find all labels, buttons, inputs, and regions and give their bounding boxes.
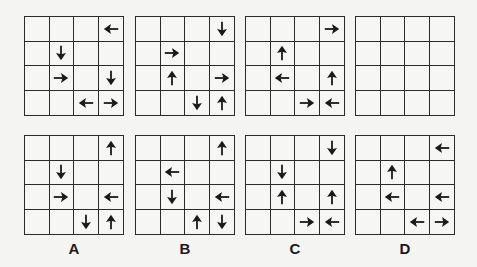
grid-cell <box>405 91 430 116</box>
grid-cell <box>99 210 124 235</box>
grid-cell <box>74 210 99 235</box>
grid-cell <box>356 210 381 235</box>
arrow-left-icon <box>273 69 291 87</box>
grid-cell <box>210 210 235 235</box>
grid-cell <box>99 161 124 186</box>
grid-cell <box>74 91 99 116</box>
grid-cell <box>50 136 75 161</box>
grid-cell <box>320 161 345 186</box>
grid-cell <box>74 66 99 91</box>
grid-cell <box>295 66 320 91</box>
grid-cell <box>320 91 345 116</box>
grid-cell <box>356 66 381 91</box>
arrow-left-icon <box>323 94 341 112</box>
grid-cell <box>136 136 161 161</box>
grid-cell <box>430 185 455 210</box>
grid-cell <box>136 210 161 235</box>
arrow-left-icon <box>433 139 451 157</box>
sequence-grid-4 <box>355 16 455 116</box>
grid-cell <box>246 17 271 42</box>
grid-cell <box>430 136 455 161</box>
grid-cell <box>74 17 99 42</box>
grid-cell <box>430 42 455 67</box>
grid-cell <box>210 42 235 67</box>
grid-cell <box>356 42 381 67</box>
grid-cell <box>25 210 50 235</box>
grid-cell <box>381 161 406 186</box>
grid-cell <box>99 42 124 67</box>
grid-cell <box>405 185 430 210</box>
grid-cell <box>320 210 345 235</box>
grid-cell <box>295 91 320 116</box>
option-label-b[interactable]: B <box>135 240 235 257</box>
grid-cell <box>25 91 50 116</box>
grid-cell <box>405 136 430 161</box>
grid-cell <box>246 210 271 235</box>
grid-cell <box>185 136 210 161</box>
grid-cell <box>405 42 430 67</box>
grid-cell <box>356 91 381 116</box>
option-grid-b <box>135 135 235 235</box>
grid-cell <box>381 91 406 116</box>
grid-cell <box>271 185 296 210</box>
grid-cell <box>246 91 271 116</box>
grid-cell <box>185 185 210 210</box>
grid-cell <box>271 17 296 42</box>
grid-cell <box>25 66 50 91</box>
grid-cell <box>99 17 124 42</box>
grid-cell <box>295 42 320 67</box>
arrow-right-icon <box>298 94 316 112</box>
grid-cell <box>271 66 296 91</box>
arrow-down-icon <box>188 94 206 112</box>
option-label-d[interactable]: D <box>355 240 455 257</box>
option-grid-d <box>355 135 455 235</box>
grid-cell <box>136 161 161 186</box>
grid-cell <box>185 91 210 116</box>
grid-cell <box>320 42 345 67</box>
grid-cell <box>271 136 296 161</box>
grid-cell <box>99 66 124 91</box>
grid-cell <box>50 185 75 210</box>
arrow-up-icon <box>273 188 291 206</box>
grid-cell <box>161 161 186 186</box>
grid-cell <box>161 66 186 91</box>
grid-cell <box>356 136 381 161</box>
grid-cell <box>246 136 271 161</box>
grid-cell <box>50 42 75 67</box>
grid-cell <box>185 17 210 42</box>
option-label-c[interactable]: C <box>245 240 345 257</box>
grid-cell <box>320 136 345 161</box>
grid-cell <box>161 17 186 42</box>
arrow-left-icon <box>102 188 120 206</box>
arrow-up-icon <box>163 69 181 87</box>
sequence-grid-1 <box>24 16 124 116</box>
grid-cell <box>271 42 296 67</box>
grid-cell <box>295 17 320 42</box>
arrow-right-icon <box>52 188 70 206</box>
grid-cell <box>185 42 210 67</box>
grid-cell <box>295 136 320 161</box>
grid-cell <box>405 210 430 235</box>
grid-cell <box>381 42 406 67</box>
grid-cell <box>356 185 381 210</box>
arrow-left-icon <box>323 213 341 231</box>
grid-cell <box>136 91 161 116</box>
arrow-left-icon <box>163 163 181 181</box>
grid-cell <box>320 185 345 210</box>
grid-cell <box>381 17 406 42</box>
grid-cell <box>25 136 50 161</box>
option-label-a[interactable]: A <box>24 240 124 257</box>
grid-cell <box>381 136 406 161</box>
grid-cell <box>50 210 75 235</box>
grid-cell <box>99 185 124 210</box>
grid-cell <box>295 185 320 210</box>
grid-cell <box>74 136 99 161</box>
arrow-left-icon <box>408 213 426 231</box>
grid-cell <box>320 17 345 42</box>
grid-cell <box>430 161 455 186</box>
arrow-up-icon <box>188 213 206 231</box>
grid-cell <box>430 66 455 91</box>
arrow-up-icon <box>323 188 341 206</box>
grid-cell <box>161 185 186 210</box>
option-grid-c <box>245 135 345 235</box>
